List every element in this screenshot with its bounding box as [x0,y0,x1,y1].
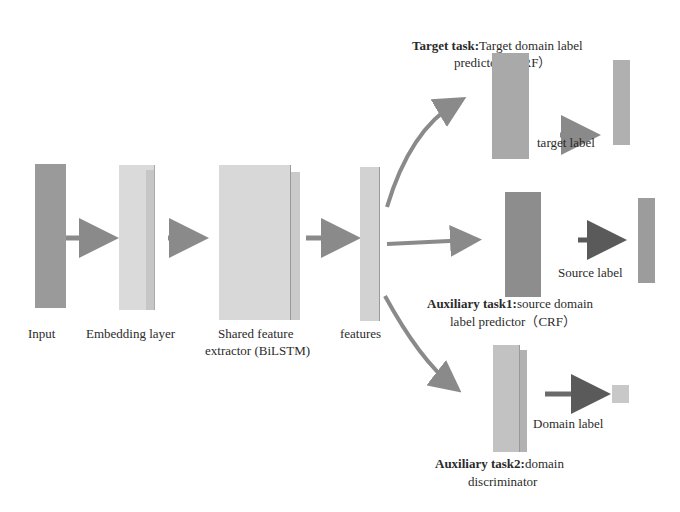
source-label-block [638,198,655,283]
shared-feature-extractor-label-line2: extractor (BiLSTM) [205,343,310,359]
embedding-layer-label: Embedding layer [86,326,175,342]
input-block [35,164,66,308]
domain-task-title-bold: Auxiliary task2: [435,456,525,471]
shared-feature-extractor-depth [291,172,300,320]
domain-label-block [612,385,629,403]
arrow-features-to-target [387,103,456,207]
target-task-title-rest: Target domain label [479,38,583,53]
source-task-title-line2: label predictor（CRF） [450,314,576,330]
domain-task-title-rest: domain [525,456,564,471]
domain-discriminator-depth [520,350,527,452]
source-label-text: Source label [558,265,623,281]
domain-task-title-line1: Auxiliary task2:domain [435,456,564,472]
arrows-layer [0,0,680,512]
features-label: features [340,326,381,342]
target-task-title-bold: Target task: [412,38,479,53]
domain-label-text: Domain label [533,416,603,432]
domain-task-title-line2: discriminator [468,474,537,490]
source-task-title-bold: Auxiliary task1: [427,296,517,311]
target-label-block [613,60,630,145]
target-predictor-block [492,53,529,159]
source-task-title-line1: Auxiliary task1:source domain [427,296,593,312]
input-label: Input [28,326,55,342]
source-task-title-rest: source domain [517,296,593,311]
domain-discriminator-block [493,345,520,452]
target-label-text: target label [537,135,595,151]
shared-feature-extractor-label-line1: Shared feature [218,326,293,342]
target-task-title-line1: Target task:Target domain label [412,38,583,54]
arrow-features-to-source [387,240,470,244]
features-block [360,167,380,321]
source-predictor-block [505,192,541,297]
shared-feature-extractor-block [219,165,291,320]
embedding-layer-depth [146,170,154,310]
